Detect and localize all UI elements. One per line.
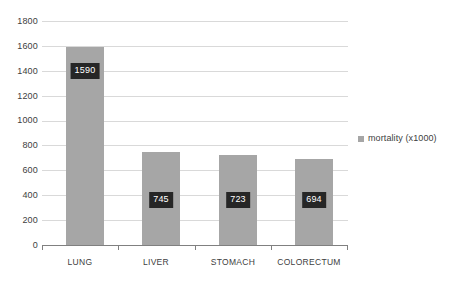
x-axis-category-label: LUNG <box>42 258 118 267</box>
y-axis-tick-label: 800 <box>2 141 38 150</box>
y-axis-tick-label: 1200 <box>2 92 38 101</box>
x-axis-category-label: STOMACH <box>195 258 271 267</box>
bar-group[interactable]: 723 <box>219 21 257 245</box>
x-axis-tick <box>118 245 119 250</box>
legend-label: mortality (x1000) <box>368 134 437 143</box>
x-axis-tick <box>271 245 272 250</box>
x-axis-tick <box>195 245 196 250</box>
y-axis: 1800 1600 1400 1200 1000 800 600 400 200… <box>0 0 38 282</box>
bar-value-label: 694 <box>302 192 326 208</box>
x-axis-category-label: LIVER <box>118 258 194 267</box>
legend-swatch-icon <box>358 136 364 142</box>
x-axis-tick <box>42 245 43 250</box>
bar-group[interactable]: 694 <box>295 21 333 245</box>
bar-group[interactable]: 1590 <box>66 21 104 245</box>
bar-value-label: 1590 <box>71 63 100 79</box>
bar-value-label: 745 <box>149 192 173 208</box>
y-axis-tick-label: 1800 <box>2 17 38 26</box>
plot-area: 1590 745 723 694 <box>42 21 348 245</box>
y-axis-tick-label: 600 <box>2 166 38 175</box>
bar-group[interactable]: 745 <box>142 21 180 245</box>
x-axis-tick <box>347 245 348 250</box>
y-axis-tick-label: 0 <box>2 241 38 250</box>
y-axis-tick-label: 1600 <box>2 42 38 51</box>
bar-chart: 1800 1600 1400 1200 1000 800 600 400 200… <box>0 0 458 282</box>
legend[interactable]: mortality (x1000) <box>358 134 437 143</box>
y-axis-tick-label: 400 <box>2 191 38 200</box>
y-axis-tick-label: 1400 <box>2 67 38 76</box>
y-axis-tick-label: 1000 <box>2 116 38 125</box>
y-axis-tick-label: 200 <box>2 216 38 225</box>
bar-value-label: 723 <box>226 192 250 208</box>
x-axis-category-label: COLORECTUM <box>271 258 347 267</box>
